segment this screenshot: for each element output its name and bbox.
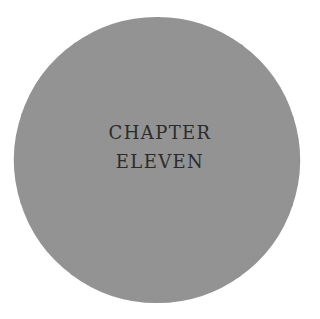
pinwheel-disc-graphic xyxy=(0,0,320,319)
chapter-title-page: Chapter Eleven xyxy=(0,0,320,319)
pinwheel-blades xyxy=(0,0,320,319)
